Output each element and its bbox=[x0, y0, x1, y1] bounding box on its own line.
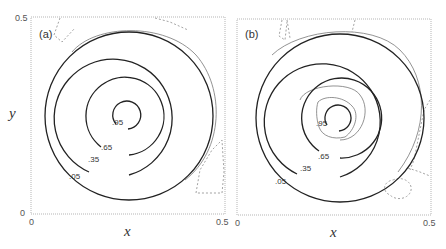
panel-b-x-axis-label: x bbox=[329, 224, 337, 240]
panel-b-contour-labels: .95 .65 .35 .05 bbox=[275, 119, 330, 186]
svg-text:.35: .35 bbox=[300, 164, 312, 173]
panel-a-y-axis-label: y bbox=[7, 105, 16, 121]
svg-text:.95: .95 bbox=[112, 118, 124, 127]
panel-b: (b) .95 .65 .35 .05 0 bbox=[235, 19, 436, 240]
panel-b-x-tick-max: 0.5 bbox=[423, 218, 436, 228]
panel-b-label: (b) bbox=[245, 28, 258, 40]
svg-text:.35: .35 bbox=[88, 155, 100, 164]
svg-text:.65: .65 bbox=[318, 152, 330, 161]
panel-a-y-tick-min: 0 bbox=[20, 208, 25, 218]
panel-b-x-tick-min: 0 bbox=[235, 218, 240, 228]
panel-b-thin-contours bbox=[272, 32, 422, 172]
figure: (a) .95 .65 .35 .05 0.5 0 0 0.5 x y bbox=[0, 0, 446, 249]
panel-a-x-axis-label: x bbox=[123, 223, 131, 239]
svg-text:.65: .65 bbox=[101, 143, 113, 152]
panel-a-contour-labels: .95 .65 .35 .05 bbox=[69, 118, 124, 181]
svg-text:.95: .95 bbox=[316, 119, 328, 128]
panel-a-frame bbox=[31, 17, 225, 214]
panel-a-x-tick-max: 0.5 bbox=[216, 217, 229, 227]
svg-text:.05: .05 bbox=[69, 172, 81, 181]
panel-a-label: (a) bbox=[39, 28, 52, 40]
panel-b-frame bbox=[237, 19, 431, 215]
panel-a-y-tick-max: 0.5 bbox=[15, 13, 28, 23]
panel-a: (a) .95 .65 .35 .05 0.5 0 0 0.5 x y bbox=[7, 13, 229, 239]
panel-a-x-tick-min: 0 bbox=[29, 217, 34, 227]
svg-text:.05: .05 bbox=[275, 177, 287, 186]
